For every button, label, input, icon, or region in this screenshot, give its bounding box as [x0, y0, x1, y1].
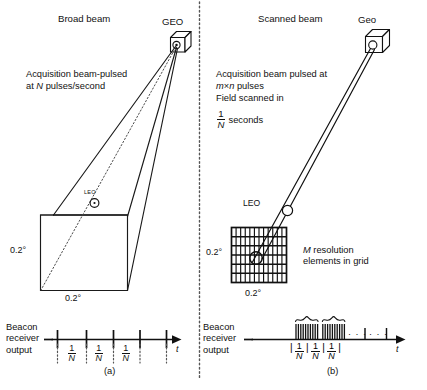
panel-b-description-line3: Field scanned in [216, 93, 284, 104]
panel-b-grid-annotation: M resolution elements in grid [303, 245, 369, 268]
panel-b-scan-time-numerator: 1 [217, 109, 226, 119]
leo-marker-b [282, 205, 292, 215]
panel-b-satellite-label: Geo [358, 14, 376, 26]
waveform-b-delimiter-0: | [290, 342, 293, 353]
leo-marker-a [90, 199, 99, 208]
panel-a-desc2-post: pulses/second [43, 81, 105, 91]
waveform-b-axis-arrow [396, 335, 406, 343]
waveform-b-ellipsis-1: · · · [348, 329, 367, 340]
panel-b-grid-annotation-line1-post: resolution [311, 245, 354, 255]
waveform-a-y-label-line1: Beacon [6, 322, 38, 332]
waveform-b-interval-1-numerator: 1 [295, 342, 304, 351]
panel-a-leo-label: LEO [84, 189, 96, 196]
waveform-a-interval-2: 1 N [94, 342, 104, 363]
waveform-b-burst-braces [296, 317, 345, 322]
panel-a-angle-vertical: 0.2° [10, 245, 26, 256]
panel-a-desc2-pre: at [26, 81, 36, 91]
waveform-b-interval-1-denominator: N [295, 351, 304, 361]
figure-container: Broad beam GEO Acquisition beam-pulsed a… [0, 0, 427, 390]
scanned-beam-rays [253, 49, 375, 263]
panel-b-desc4-post: seconds [226, 115, 263, 125]
waveform-a-interval-1-numerator: 1 [68, 344, 77, 353]
panel-b-angle-horizontal: 0.2° [245, 288, 261, 299]
waveform-b-axis-label: t [396, 344, 399, 355]
waveform-a-axis-label: t [176, 344, 179, 355]
waveform-a [44, 330, 182, 363]
panel-b-leo-label: LEO [243, 198, 260, 208]
panel-a-satellite-label: GEO [162, 16, 183, 28]
waveform-b-delimiter-2: | [322, 342, 325, 353]
waveform-b-interval-3-denominator: N [327, 351, 336, 361]
waveform-b-delimiter-1: | [306, 342, 309, 353]
waveform-a-interval-2-numerator: 1 [95, 344, 104, 353]
panel-b-scan-time-fraction: 1 N [216, 109, 226, 130]
waveform-b-interval-row: | 1 N | 1 N | 1 N | [290, 342, 341, 361]
panel-b-grid-annotation-line2: elements in grid [303, 256, 369, 266]
waveform-b-interval-2: 1 N [311, 342, 321, 361]
waveform-b-burst-1 [296, 324, 318, 340]
waveform-a-interval-3-numerator: 1 [122, 344, 131, 353]
beam-spot-in-grid [250, 252, 262, 264]
waveform-b-y-label-line1: Beacon [203, 322, 235, 332]
waveform-a-y-label: Beacon receiver output [6, 322, 39, 356]
waveform-b-interval-3: 1 N [327, 342, 337, 361]
geo-satellite-icon-b [366, 30, 390, 53]
waveform-b-y-label-line2: receiver [203, 333, 236, 343]
waveform-a-axis-arrow [172, 335, 182, 343]
beam-footprint-square [41, 215, 128, 291]
resolution-grid [232, 228, 287, 283]
waveform-b-burst-2 [323, 324, 345, 340]
panel-b-description-line4: 1 N seconds [216, 109, 263, 130]
caption-b: (b) [327, 366, 338, 377]
panel-b-angle-vertical: 0.2° [206, 247, 222, 258]
waveform-a-interval-1-denominator: N [68, 353, 77, 363]
waveform-b-y-label-line3: output [203, 345, 229, 355]
panel-a-description-line2: at N pulses/second [26, 81, 105, 92]
caption-a: (a) [104, 366, 115, 377]
waveform-a-y-label-line3: output [6, 345, 32, 355]
panel-b-grid-annotation-var: M [303, 245, 311, 255]
waveform-b-ellipsis-2: · · · [369, 329, 388, 340]
waveform-b-y-label: Beacon receiver output [203, 322, 236, 356]
waveform-a-interval-3: 1 N [121, 342, 131, 363]
panel-b-description-line1: Acquisition beam pulsed at [216, 69, 327, 80]
panel-b-description-line2: m×n pulses [216, 81, 264, 92]
panel-a-title: Broad beam [58, 13, 110, 25]
panel-a-angle-horizontal: 0.2° [65, 293, 81, 304]
waveform-a-interval-3-denominator: N [122, 353, 131, 363]
waveform-b-interval-2-denominator: N [311, 351, 320, 361]
waveform-a-y-label-line2: receiver [6, 333, 39, 343]
waveform-b-interval-2-numerator: 1 [311, 342, 320, 351]
panel-b-title: Scanned beam [258, 13, 323, 25]
waveform-b-delimiter-3: | [338, 342, 341, 353]
waveform-a-interval-2-denominator: N [95, 353, 104, 363]
waveform-b-interval-1: 1 N [295, 342, 305, 361]
panel-b-scan-time-denominator: N [217, 119, 226, 130]
waveform-b-interval-3-numerator: 1 [327, 342, 336, 351]
waveform-a-interval-1: 1 N [67, 342, 77, 363]
panel-a-description-line1: Acquisition beam-pulsed [26, 69, 127, 80]
panel-b-desc2-post: pulses [234, 81, 263, 91]
panel-b-desc2-var1: m [216, 81, 224, 91]
